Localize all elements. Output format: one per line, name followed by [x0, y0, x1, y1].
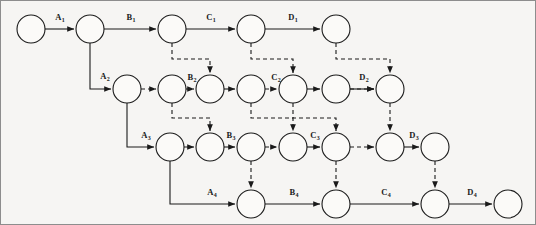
event-node — [376, 133, 404, 161]
edge-label-C2: C2 — [271, 72, 281, 83]
network-diagram: A1B1C1D1A2B2C2D2A3B3C3D3A4B4C4D4 — [0, 0, 536, 225]
event-node — [376, 75, 404, 103]
activity-edge-A4 — [170, 161, 235, 204]
dependency-edge — [293, 103, 336, 131]
event-node — [494, 190, 522, 218]
edge-label-C3: C3 — [310, 130, 320, 141]
event-node — [421, 133, 449, 161]
nodes-layer — [17, 15, 522, 218]
edge-label-A3: A3 — [141, 130, 151, 141]
event-node — [158, 15, 186, 43]
dependency-edge — [172, 43, 210, 73]
edge-label-B4: B4 — [289, 187, 298, 198]
edge-label-C4: C4 — [381, 187, 391, 198]
event-node — [322, 190, 350, 218]
edge-label-D4: D4 — [467, 187, 477, 198]
edge-label-B2: B2 — [187, 72, 196, 83]
event-node — [322, 15, 350, 43]
event-node — [196, 133, 224, 161]
event-node — [421, 190, 449, 218]
event-node — [237, 190, 265, 218]
edge-label-A1: A1 — [55, 12, 65, 23]
dependency-edge — [172, 103, 210, 131]
edge-label-C1: C1 — [206, 12, 216, 23]
edge-label-A4: A4 — [207, 187, 217, 198]
diagram-canvas: A1B1C1D1A2B2C2D2A3B3C3D3A4B4C4D4 — [0, 0, 536, 225]
event-node — [156, 133, 184, 161]
activity-edges-layer — [45, 29, 492, 204]
edge-label-B3: B3 — [226, 130, 235, 141]
event-node — [113, 75, 141, 103]
edge-label-A2: A2 — [100, 71, 110, 82]
event-node — [279, 75, 307, 103]
edge-label-D1: D1 — [288, 12, 298, 23]
event-node — [237, 75, 265, 103]
dependency-edge — [251, 103, 293, 131]
edge-labels-layer: A1B1C1D1A2B2C2D2A3B3C3D3A4B4C4D4 — [55, 12, 477, 198]
dependency-edge — [336, 43, 390, 73]
event-node — [322, 75, 350, 103]
event-node — [279, 133, 307, 161]
event-node — [322, 133, 350, 161]
event-node — [76, 15, 104, 43]
dependency-edge — [251, 43, 293, 73]
edge-label-D3: D3 — [409, 130, 419, 141]
event-node — [196, 75, 224, 103]
event-node — [17, 15, 45, 43]
event-node — [158, 75, 186, 103]
dependency-edges-layer — [141, 43, 435, 188]
edge-label-D2: D2 — [359, 72, 369, 83]
event-node — [237, 15, 265, 43]
event-node — [237, 133, 265, 161]
edge-label-B1: B1 — [126, 12, 135, 23]
